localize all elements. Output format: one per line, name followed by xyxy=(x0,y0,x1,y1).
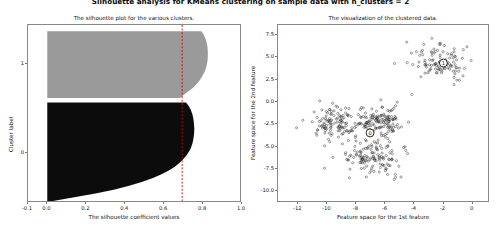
silhouette-plot-axes: The silhouette plot for the various clus… xyxy=(27,24,241,202)
silhouette-y-tickmark xyxy=(25,63,27,64)
scatter-x-ticklabel: -8 xyxy=(353,205,358,211)
silhouette-x-axis-label: The silhouette coefficient values xyxy=(27,214,241,220)
silhouette-y-axis-label: Cluster label xyxy=(8,117,14,152)
scatter-x-tickmark xyxy=(443,202,444,204)
svg-text:1: 1 xyxy=(442,60,445,66)
scatter-y-ticklabel: -2.5 xyxy=(255,120,274,126)
scatter-y-tickmark xyxy=(275,190,277,191)
scatter-y-ticklabel: -5.0 xyxy=(255,143,274,149)
silhouette-cluster-1 xyxy=(47,31,208,98)
scatter-y-axis-label: Feature space for the 2nd feature xyxy=(250,66,256,160)
scatter-points xyxy=(296,37,473,180)
silhouette-x-ticklabel: 0.2 xyxy=(81,205,89,211)
silhouette-plot-canvas xyxy=(28,25,240,201)
silhouette-cluster-0 xyxy=(47,102,194,201)
scatter-x-ticklabel: -6 xyxy=(382,205,387,211)
scatter-y-tickmark xyxy=(275,79,277,80)
centroid-marker-1: 1 xyxy=(439,59,447,67)
silhouette-x-tickmark xyxy=(163,202,164,204)
scatter-x-ticklabel: -2 xyxy=(440,205,445,211)
centroid-marker-0: 0 xyxy=(366,129,374,137)
silhouette-x-ticklabel: 0.4 xyxy=(120,205,128,211)
silhouette-x-ticklabel: 0.0 xyxy=(42,205,50,211)
scatter-y-tickmark xyxy=(275,146,277,147)
cluster-scatter-axes: The visualization of the clustered data.… xyxy=(277,24,489,202)
silhouette-x-tickmark xyxy=(124,202,125,204)
silhouette-x-ticklabel: -0.1 xyxy=(22,205,32,211)
scatter-x-ticklabel: -4 xyxy=(411,205,416,211)
silhouette-x-tickmark xyxy=(85,202,86,204)
svg-text:0: 0 xyxy=(368,130,371,136)
scatter-y-ticklabel: 2.5 xyxy=(255,76,274,82)
silhouette-plot-title: The silhouette plot for the various clus… xyxy=(28,15,240,21)
silhouette-x-tickmark xyxy=(46,202,47,204)
scatter-y-tickmark xyxy=(275,168,277,169)
silhouette-x-ticklabel: 0.6 xyxy=(159,205,167,211)
silhouette-x-ticklabel: 1.0 xyxy=(237,205,245,211)
scatter-x-tickmark xyxy=(355,202,356,204)
scatter-y-ticklabel: 0.0 xyxy=(255,98,274,104)
scatter-y-tickmark xyxy=(275,123,277,124)
scatter-y-ticklabel: 7.5 xyxy=(255,31,274,37)
scatter-y-ticklabel: -7.5 xyxy=(255,165,274,171)
silhouette-x-tickmark xyxy=(27,202,28,204)
scatter-x-tickmark xyxy=(413,202,414,204)
scatter-y-ticklabel: -10.0 xyxy=(255,187,274,193)
scatter-y-ticklabel: 5.0 xyxy=(255,53,274,59)
silhouette-y-ticklabel: 1 xyxy=(11,60,24,66)
scatter-x-ticklabel: 0 xyxy=(470,205,473,211)
scatter-y-tickmark xyxy=(275,34,277,35)
scatter-x-tickmark xyxy=(297,202,298,204)
scatter-x-tickmark xyxy=(384,202,385,204)
scatter-x-axis-label: Feature space for the 1st feature xyxy=(277,214,489,220)
figure-suptitle: Silhouette analysis for KMeans clusterin… xyxy=(0,0,501,6)
silhouette-y-tickmark xyxy=(25,152,27,153)
scatter-x-tickmark xyxy=(472,202,473,204)
scatter-x-ticklabel: -10 xyxy=(322,205,330,211)
scatter-y-tickmark xyxy=(275,56,277,57)
silhouette-x-tickmark xyxy=(241,202,242,204)
cluster-scatter-canvas: 01 xyxy=(278,25,488,201)
figure-canvas: Silhouette analysis for KMeans clusterin… xyxy=(0,0,501,236)
scatter-y-tickmark xyxy=(275,101,277,102)
scatter-plot-title: The visualization of the clustered data. xyxy=(278,15,488,21)
silhouette-x-ticklabel: 0.8 xyxy=(198,205,206,211)
silhouette-x-tickmark xyxy=(202,202,203,204)
scatter-x-ticklabel: -12 xyxy=(293,205,301,211)
scatter-x-tickmark xyxy=(326,202,327,204)
